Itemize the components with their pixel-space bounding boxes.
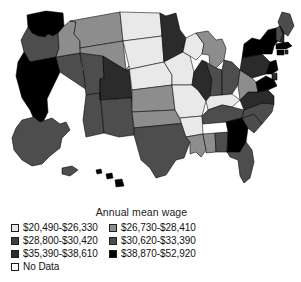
state-NM[interactable] xyxy=(100,93,134,137)
legend-label-3: $28,800-$30,420 xyxy=(23,235,98,246)
legend-entry-4[interactable]: $30,620-$33,390 xyxy=(109,234,207,247)
legend-entry-1[interactable]: $20,490-$26,330 xyxy=(11,221,109,234)
state-RI[interactable] xyxy=(285,50,288,54)
legend-label-no-data: No Data xyxy=(23,261,59,272)
us-map xyxy=(0,0,301,203)
legend-swatch-5 xyxy=(11,250,19,258)
legend-swatch-3 xyxy=(11,237,19,245)
us-map-svg xyxy=(0,0,301,203)
states-group xyxy=(12,11,294,187)
legend-entry-5[interactable]: $35,390-$38,610 xyxy=(11,247,109,260)
legend-swatch-4 xyxy=(109,237,117,245)
state-HI[interactable] xyxy=(96,169,124,187)
state-NY[interactable] xyxy=(242,28,280,58)
legend-label-4: $30,620-$33,390 xyxy=(121,235,196,246)
state-OH[interactable] xyxy=(222,60,240,95)
state-TX[interactable] xyxy=(134,123,190,178)
legend-row: $28,800-$30,420 $30,620-$33,390 xyxy=(11,234,301,247)
legend-label-2: $26,730-$28,410 xyxy=(121,222,196,233)
legend-row: $35,390-$38,610 $38,870-$52,920 xyxy=(11,247,301,260)
legend-swatch-no-data xyxy=(11,263,19,271)
legend-label-1: $20,490-$26,330 xyxy=(23,222,98,233)
legend-row: No Data xyxy=(11,260,301,273)
legend-entry-2[interactable]: $26,730-$28,410 xyxy=(109,221,207,234)
legend: Annual mean wage $20,490-$26,330 $26,730… xyxy=(0,203,301,282)
legend-label-6: $38,870-$52,920 xyxy=(121,248,196,259)
choropleth-figure: Annual mean wage $20,490-$26,330 $26,730… xyxy=(0,0,301,282)
state-CT[interactable] xyxy=(277,50,284,55)
state-KS[interactable] xyxy=(132,85,175,112)
legend-swatch-1 xyxy=(11,224,19,232)
legend-row: $20,490-$26,330 $26,730-$28,410 xyxy=(11,221,301,234)
legend-label-5: $35,390-$38,610 xyxy=(23,248,98,259)
state-AK[interactable] xyxy=(12,117,78,176)
legend-swatch-2 xyxy=(109,224,117,232)
state-MA[interactable] xyxy=(276,42,292,49)
legend-entry-no-data[interactable]: No Data xyxy=(11,260,109,273)
state-LA[interactable] xyxy=(186,134,206,157)
state-CA[interactable] xyxy=(16,52,60,124)
legend-entries: $20,490-$26,330 $26,730-$28,410 $28,800-… xyxy=(0,221,301,273)
state-AL[interactable] xyxy=(215,132,228,152)
legend-entry-6[interactable]: $38,870-$52,920 xyxy=(109,247,207,260)
state-DE[interactable] xyxy=(272,73,277,80)
legend-entry-3[interactable]: $28,800-$30,420 xyxy=(11,234,109,247)
legend-swatch-6 xyxy=(109,250,117,258)
legend-title: Annual mean wage xyxy=(0,203,301,219)
